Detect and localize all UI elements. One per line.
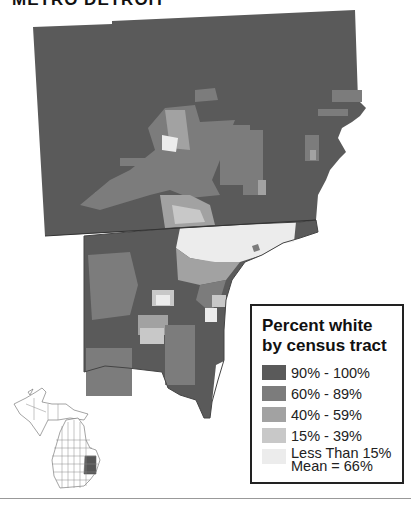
legend-item-under-15: Less Than 15% Mean = 66% xyxy=(262,447,402,473)
legend-label: 15% - 39% xyxy=(291,428,362,444)
legend: Percent white by census tract 90% - 100%… xyxy=(250,304,404,484)
oakland-county xyxy=(33,10,366,236)
swatch-60-89 xyxy=(262,386,286,401)
legend-label: 60% - 89% xyxy=(291,386,362,402)
legend-label: 40% - 59% xyxy=(291,407,362,423)
legend-item-40-59: 40% - 59% xyxy=(262,404,402,425)
legend-item-90-100: 90% - 100% xyxy=(262,362,402,383)
legend-item-60-89: 60% - 89% xyxy=(262,383,402,404)
swatch-under-15 xyxy=(262,449,286,464)
legend-mean: Mean = 66% xyxy=(291,460,392,473)
legend-title-line2: by census tract xyxy=(262,336,402,356)
michigan-inset-map xyxy=(14,388,100,488)
swatch-40-59 xyxy=(262,407,286,422)
legend-label: 90% - 100% xyxy=(291,365,370,381)
swatch-90-100 xyxy=(262,365,286,380)
legend-item-15-39: 15% - 39% xyxy=(262,425,402,446)
swatch-15-39 xyxy=(262,428,286,443)
footer-divider xyxy=(0,498,411,499)
legend-title-line1: Percent white xyxy=(262,316,402,336)
